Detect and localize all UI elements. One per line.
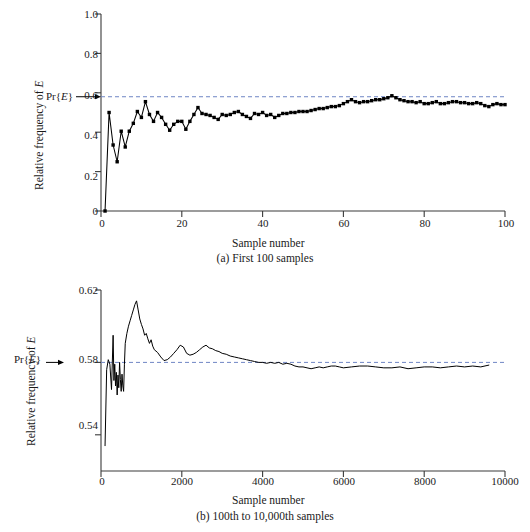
- panel-a-pr-event: E: [61, 90, 68, 102]
- panel-b-ytick-058: 0.58: [66, 354, 98, 365]
- panel-a-xtick-60: 60: [334, 218, 354, 229]
- panel-a-xaxis-title: Sample number: [232, 238, 305, 250]
- panel-a-xaxis-title-text: Sample number: [232, 237, 305, 249]
- panel-b-xtick-0: 0: [92, 476, 112, 487]
- panel-a-yaxis-title-text: Relative frequency of: [33, 88, 45, 191]
- panel-b-data-line: [105, 301, 489, 446]
- panel-a-pr-suffix: }: [68, 90, 73, 102]
- panel-b-yaxis-title-text: Relative frequency of: [25, 344, 37, 447]
- panel-a-data-line: [105, 96, 505, 211]
- panel-a-xtick-0: 0: [92, 218, 112, 229]
- panel-b-xtick-6000: 6000: [327, 476, 361, 487]
- panel-a-ytick-04: 0.4: [76, 130, 98, 141]
- panel-b-ytick-054: 0.54: [66, 420, 98, 431]
- panel-b-plot: [0, 266, 530, 532]
- panel-b-pr-arrow-head: [58, 360, 64, 365]
- panel-a-yaxis-title-event: E: [33, 80, 45, 87]
- panel-b-xaxis-title: Sample number: [232, 495, 305, 507]
- panel-a-xtick-80: 80: [415, 218, 435, 229]
- panel-a-caption: (a) First 100 samples: [0, 253, 530, 265]
- panel-a-ytick-0: 0: [76, 206, 98, 217]
- panel-a-xtick-20: 20: [172, 218, 192, 229]
- panel-b-xaxis-title-text: Sample number: [232, 494, 305, 506]
- panel-b-yaxis-title-event: E: [25, 336, 37, 343]
- panel-b-xtick-10000: 10000: [485, 476, 525, 487]
- panel-b-xtick-4000: 4000: [246, 476, 280, 487]
- panel-a-xtick-40: 40: [253, 218, 273, 229]
- figure-container: 1.0 0.8 0.6 0.4 0.2 0 Pr{E} 0 20 40 60 8…: [0, 0, 530, 532]
- panel-b-xtick-8000: 8000: [408, 476, 442, 487]
- panel-a-ytick-02: 0.2: [76, 171, 98, 182]
- panel-b-ytick-062: 0.62: [66, 285, 98, 296]
- panel-a-yaxis-title: Relative frequency of E: [34, 80, 46, 190]
- panel-a-ytick-06: 0.6: [76, 90, 98, 101]
- panel-a-ytick-1: 1.0: [76, 9, 98, 20]
- panel-b-yaxis-title: Relative frequency of E: [26, 336, 38, 446]
- panel-a-pr-annotation: Pr{E}: [46, 91, 73, 102]
- panel-a-first-100-samples: 1.0 0.8 0.6 0.4 0.2 0 Pr{E} 0 20 40 60 8…: [0, 0, 530, 268]
- panel-a-xtick-100: 100: [494, 218, 518, 229]
- panel-a-pr-prefix: Pr{: [46, 90, 61, 102]
- panel-b-caption: (b) 100th to 10,000th samples: [0, 511, 530, 523]
- panel-a-ytick-08: 0.8: [76, 49, 98, 60]
- panel-b-100th-to-10000th-samples: 0.62 0.58 0.54 Pr{E} 0 2000 4000 6000 80…: [0, 266, 530, 532]
- panel-b-xtick-2000: 2000: [165, 476, 199, 487]
